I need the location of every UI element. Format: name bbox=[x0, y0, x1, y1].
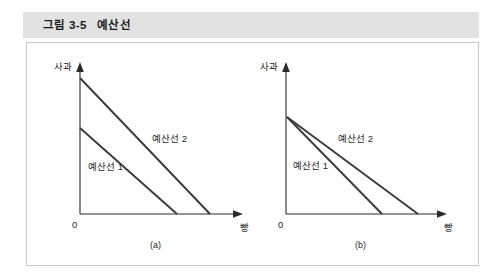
chart-b-y-axis-label: 사과 bbox=[260, 61, 278, 73]
chart-b-budget-line-1-label: 예산선 1 bbox=[293, 160, 328, 172]
chart-a-x-axis-label: 빵 bbox=[240, 222, 249, 234]
chart-a-origin-label: 0 bbox=[72, 219, 77, 231]
chart-a-budget-line-1-label: 예산선 1 bbox=[88, 161, 123, 173]
figure-panel bbox=[26, 42, 479, 266]
chart-a-budget-line-2-label: 예산선 2 bbox=[152, 133, 187, 145]
figure-root: 그림 3-5 예산선 bbox=[0, 0, 503, 280]
figure-title: 그림 3-5 예산선 bbox=[43, 17, 131, 33]
figure-header-band: 그림 3-5 예산선 bbox=[23, 12, 479, 38]
chart-b-budget-line-2-label: 예산선 2 bbox=[338, 133, 373, 145]
chart-b-origin-label: 0 bbox=[278, 219, 283, 231]
chart-a-caption: (a) bbox=[150, 239, 161, 251]
chart-b-x-axis-label: 빵 bbox=[444, 222, 453, 234]
chart-a-y-axis-label: 사과 bbox=[54, 61, 72, 73]
chart-b-caption: (b) bbox=[355, 239, 366, 251]
